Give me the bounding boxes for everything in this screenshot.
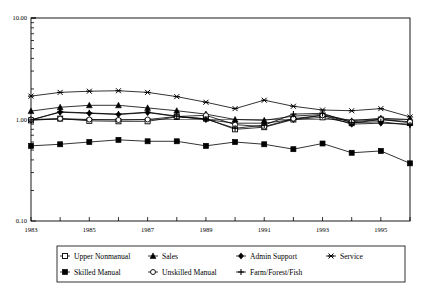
occupation-index-line-chart: 10.001.000.10198319851987198919911993199… [0,0,425,287]
legend-label: Farm/Forest/Fish [250,268,303,277]
legend-label: Skilled Manual [74,268,121,277]
x-tick-label: 1985 [83,226,96,233]
chart-container: 10.001.000.10198319851987198919911993199… [0,0,425,287]
x-tick-label: 1995 [374,226,387,233]
legend-label: Upper Nonmanual [74,252,130,261]
y-tick-label: 10.00 [12,14,27,21]
x-tick-label: 1993 [316,226,329,233]
x-tick-label: 1989 [199,226,212,233]
x-tick-label: 1991 [258,226,271,233]
legend-label: Admin Support [250,252,298,261]
legend-label: Unskilled Manual [162,268,217,277]
y-tick-label: 1.00 [16,116,27,123]
legend-label: Service [340,252,363,261]
chart-legend: Upper NonmanualSalesAdmin SupportService… [57,246,405,282]
y-tick-label: 0.10 [16,217,27,224]
x-tick-label: 1983 [25,226,38,233]
legend-label: Sales [162,252,178,261]
x-tick-label: 1987 [141,226,155,233]
